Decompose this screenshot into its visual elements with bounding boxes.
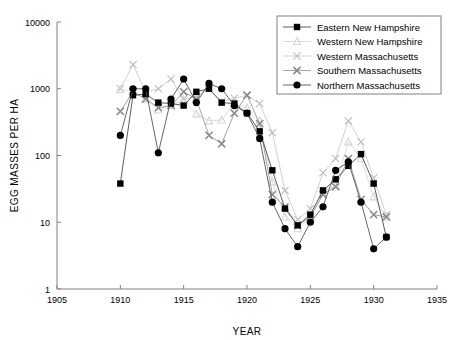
marker-x — [117, 108, 124, 115]
marker-square — [155, 99, 161, 105]
marker-circle — [256, 135, 263, 142]
marker-x — [155, 85, 162, 92]
x-tick-label-1920: 1920 — [237, 295, 257, 305]
marker-circle — [332, 167, 339, 174]
marker-circle — [319, 203, 326, 210]
marker-circle — [142, 85, 149, 92]
marker-square — [180, 102, 186, 108]
x-axis-title: YEAR — [233, 326, 262, 337]
marker-x — [129, 61, 136, 68]
marker-circle — [269, 199, 276, 206]
series-line — [120, 92, 386, 226]
y-tick-label-1: 1 — [45, 285, 50, 295]
marker-x — [243, 92, 250, 99]
chart-svg: 1905191019151920192519301935110100100010… — [0, 0, 455, 340]
marker-x — [167, 75, 174, 82]
marker-circle — [155, 149, 162, 156]
marker-square — [358, 151, 364, 157]
x-tick-label-1905: 1905 — [47, 295, 67, 305]
marker-x — [205, 132, 212, 139]
marker-square — [269, 167, 275, 173]
marker-square — [282, 205, 288, 211]
x-tick-label-1915: 1915 — [174, 295, 194, 305]
legend-label: Eastern New Hampshire — [317, 22, 420, 33]
marker-circle — [129, 85, 136, 92]
marker-circle — [205, 80, 212, 87]
marker-square — [294, 222, 300, 228]
marker-circle — [345, 158, 352, 165]
marker-x — [269, 129, 276, 136]
marker-circle — [383, 233, 390, 240]
x-tick-label-1930: 1930 — [364, 295, 384, 305]
marker-x — [345, 117, 352, 124]
marker-x — [370, 211, 377, 218]
marker-circle — [293, 81, 300, 88]
marker-x — [319, 169, 326, 176]
marker-circle — [231, 102, 238, 109]
marker-circle — [193, 99, 200, 106]
marker-square — [370, 180, 376, 186]
marker-circle — [117, 132, 124, 139]
marker-x — [231, 110, 238, 117]
marker-circle — [370, 245, 377, 252]
marker-x — [180, 88, 187, 95]
legend-label: Northern Massachusetts — [317, 80, 420, 91]
marker-circle — [294, 243, 301, 250]
x-tick-label-1935: 1935 — [427, 295, 447, 305]
x-tick-label-1910: 1910 — [110, 295, 130, 305]
legend-label: Western Massachusetts — [317, 51, 418, 62]
y-tick-label-100: 100 — [35, 151, 50, 161]
marker-square — [307, 211, 313, 217]
marker-circle — [243, 110, 250, 117]
marker-circle — [357, 199, 364, 206]
marker-x — [256, 100, 263, 107]
marker-square — [294, 24, 300, 30]
x-tick-label-1925: 1925 — [300, 295, 320, 305]
egg-mass-chart: 1905191019151920192519301935110100100010… — [0, 0, 455, 340]
marker-x — [281, 187, 288, 194]
marker-x — [218, 140, 225, 147]
y-tick-label-10: 10 — [40, 218, 50, 228]
marker-circle — [167, 95, 174, 102]
y-axis-title: EGG MASSES PER HA — [9, 99, 20, 213]
marker-x — [357, 138, 364, 145]
marker-circle — [218, 85, 225, 92]
marker-circle — [180, 75, 187, 82]
marker-circle — [307, 219, 314, 226]
marker-circle — [281, 225, 288, 232]
legend-label: Western New Hampshire — [317, 36, 422, 47]
marker-square — [117, 180, 123, 186]
y-tick-label-10000: 10000 — [25, 18, 50, 28]
marker-square — [218, 99, 224, 105]
legend-label: Southern Massachusetts — [317, 65, 422, 76]
marker-square — [193, 89, 199, 95]
legend-box[interactable]: Eastern New HampshireWestern New Hampshi… — [277, 16, 441, 94]
marker-square — [320, 187, 326, 193]
marker-x — [332, 155, 339, 162]
y-tick-label-1000: 1000 — [30, 84, 50, 94]
